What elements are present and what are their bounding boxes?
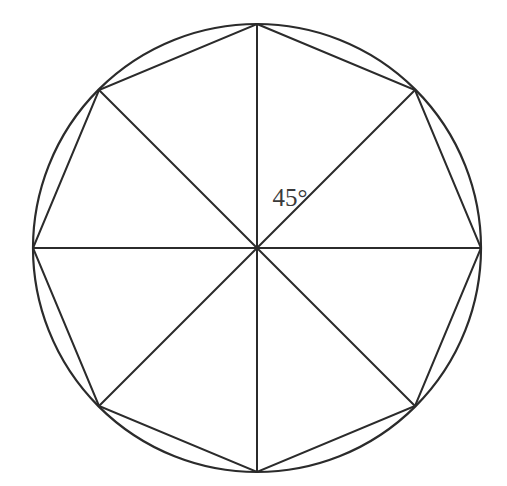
octagon-diagram-canvas: 45° xyxy=(0,0,507,486)
radius-line-4 xyxy=(257,248,415,406)
radius-line-2 xyxy=(257,90,415,248)
radii-group xyxy=(33,24,481,472)
radius-line-6 xyxy=(99,248,257,406)
central-angle-label: 45° xyxy=(273,184,308,211)
radius-line-8 xyxy=(99,90,257,248)
geometry-figure: 45° xyxy=(0,0,507,486)
